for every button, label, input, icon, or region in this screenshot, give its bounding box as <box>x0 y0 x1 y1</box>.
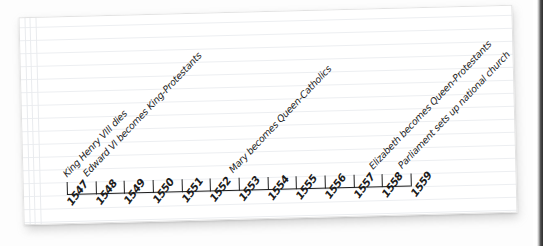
timeline-event-label: Parliament sets up national church <box>395 49 511 171</box>
timeline-year-label-layer: 1547154815491550155115521553155415551556… <box>18 5 512 18</box>
timeline-event-label: Edward VI becomes King-Protestants <box>81 50 204 179</box>
timeline-chart: 1547154815491550155115521553155415551556… <box>18 5 517 225</box>
timeline-tick <box>95 181 96 194</box>
screenshot-root: 1547154815491550155115521553155415551556… <box>0 0 543 246</box>
timeline-tick <box>353 175 354 188</box>
right-edge-frame <box>537 0 543 246</box>
notebook-paper: 1547154815491550155115521553155415551556… <box>18 5 517 225</box>
timeline-tick <box>181 179 182 192</box>
timeline-event-label: Elizabeth becomes Queen-Protestants <box>366 38 493 171</box>
timeline-event-label: Mary becomes Queen-Catholics <box>227 63 334 175</box>
timeline-tick <box>267 177 268 190</box>
timeline-tick-layer <box>18 5 512 18</box>
timeline-event-label-layer: King Henry VIII diesEdward VI becomes Ki… <box>18 5 512 18</box>
timeline-year-label: 1559 <box>408 169 434 198</box>
